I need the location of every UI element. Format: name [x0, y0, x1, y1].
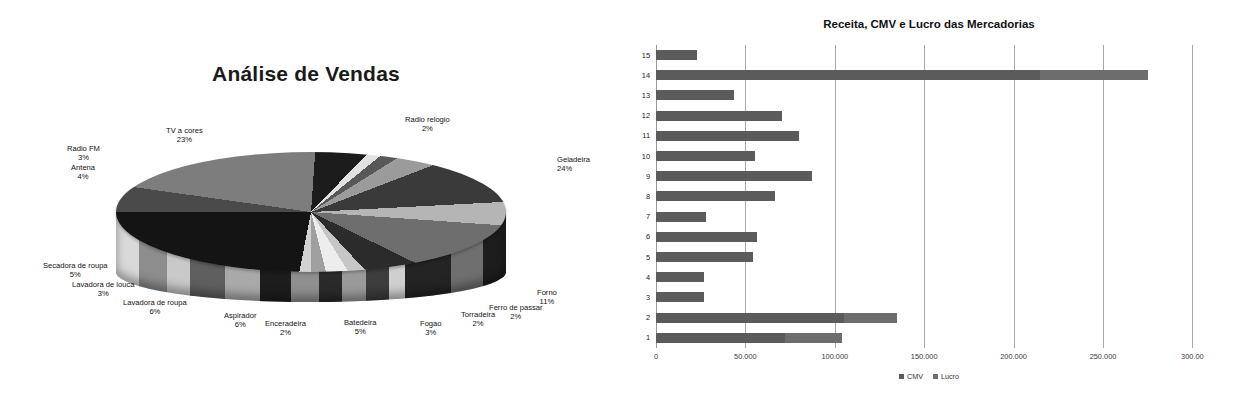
y-tick-label: 1 [626, 333, 650, 342]
bar-segment-lucro[interactable] [844, 313, 898, 323]
pie-label-fogao: Fogao 3% [420, 319, 442, 338]
pie-label-lavadora-de-louca: Lavadora de louca 3% [72, 280, 135, 299]
bar[interactable] [656, 272, 704, 282]
pie-label-enceradeira: Enceradeira 2% [265, 319, 306, 338]
x-tick-label: 250.000 [1090, 352, 1117, 361]
pie-label-tv-a-cores: TV a cores 23% [166, 126, 203, 145]
bar-segment-cmv[interactable] [656, 252, 753, 262]
bar-rows: 151413121110987654321 [626, 45, 1232, 348]
bar-segment-cmv[interactable] [656, 232, 757, 242]
bar-row: 11 [626, 126, 1232, 146]
bar-segment-cmv[interactable] [656, 212, 706, 222]
bar-chart-panel: Receita, CMV e Lucro das Mercadorias 151… [612, 0, 1246, 399]
y-tick-label: 7 [626, 212, 650, 221]
bar-row: 14 [626, 65, 1232, 85]
bar-chart-title: Receita, CMV e Lucro das Mercadorias [612, 18, 1246, 30]
bar[interactable] [656, 151, 755, 161]
bar[interactable] [656, 90, 734, 100]
bar-row: 7 [626, 207, 1232, 227]
x-tick-label: 100.000 [821, 352, 848, 361]
pie-label-lavadora-de-roupa: Lavadora de roupa 6% [123, 298, 187, 317]
bar-row: 3 [626, 287, 1232, 307]
y-tick-label: 14 [626, 71, 650, 80]
y-tick-label: 12 [626, 111, 650, 120]
bar-row: 8 [626, 186, 1232, 206]
bar-chart-plot-area: 151413121110987654321 [626, 45, 1232, 348]
legend-swatch [933, 374, 938, 379]
bar-row: 9 [626, 166, 1232, 186]
pie-label-antena: Antena 4% [71, 163, 95, 182]
legend-item[interactable]: CMV [899, 372, 923, 381]
y-tick-label: 10 [626, 152, 650, 161]
bar-row: 10 [626, 146, 1232, 166]
pie-label-aspirador: Aspirador 6% [224, 311, 257, 330]
y-tick-label: 11 [626, 131, 650, 140]
legend-item[interactable]: Lucro [933, 372, 959, 381]
pie-label-forno: Forno 11% [537, 288, 557, 307]
pie-label-radio-fm: Radio FM 3% [67, 144, 100, 163]
bar-segment-cmv[interactable] [656, 151, 755, 161]
bar[interactable] [656, 171, 812, 181]
bar-row: 4 [626, 267, 1232, 287]
bar-segment-cmv[interactable] [656, 90, 734, 100]
bar[interactable] [656, 313, 897, 323]
y-tick-label: 15 [626, 51, 650, 60]
bar-row: 13 [626, 85, 1232, 105]
y-tick-label: 13 [626, 91, 650, 100]
legend-label: CMV [907, 372, 923, 381]
bar-segment-lucro[interactable] [785, 333, 842, 343]
bar[interactable] [656, 50, 697, 60]
pie-chart-title: Análise de Vendas [0, 62, 612, 86]
x-tick-label: 50.000 [734, 352, 757, 361]
bar-segment-lucro[interactable] [1040, 70, 1147, 80]
y-tick-label: 8 [626, 192, 650, 201]
bar-chart-legend: CMVLucro [612, 372, 1246, 381]
x-tick-label: 300.00 [1181, 352, 1204, 361]
bar[interactable] [656, 232, 757, 242]
pie-chart-panel: Análise de Vendas TV a cores 23% Radio r… [0, 0, 612, 399]
bar-segment-cmv[interactable] [656, 131, 799, 141]
pie-label-radio-relogio: Radio relogio 2% [405, 115, 450, 134]
legend-swatch [899, 374, 904, 379]
x-tick-label: 200.000 [1000, 352, 1027, 361]
bar[interactable] [656, 333, 842, 343]
x-axis-tick-labels: 050.000100.000150.000200.000250.000300.0… [626, 352, 1232, 366]
bar-row: 1 [626, 328, 1232, 348]
bar-segment-cmv[interactable] [656, 272, 704, 282]
screenshot-root: Análise de Vendas TV a cores 23% Radio r… [0, 0, 1246, 399]
pie-label-secadora-de-roupa: Secadora de roupa 5% [43, 261, 108, 280]
bar-segment-cmv[interactable] [656, 171, 812, 181]
bar[interactable] [656, 191, 775, 201]
bar[interactable] [656, 111, 782, 121]
y-tick-label: 6 [626, 232, 650, 241]
pie-label-geladeira: Geladeira 24% [557, 155, 590, 174]
y-tick-label: 9 [626, 172, 650, 181]
bar-segment-cmv[interactable] [656, 191, 775, 201]
bar[interactable] [656, 131, 799, 141]
y-tick-label: 5 [626, 253, 650, 262]
bar-segment-cmv[interactable] [656, 313, 844, 323]
bar-row: 12 [626, 106, 1232, 126]
bar-row: 6 [626, 227, 1232, 247]
bar-segment-cmv[interactable] [656, 292, 704, 302]
bar[interactable] [656, 292, 704, 302]
bar-row: 5 [626, 247, 1232, 267]
x-tick-label: 0 [654, 352, 658, 361]
bar[interactable] [656, 212, 706, 222]
bar-row: 2 [626, 308, 1232, 328]
y-tick-label: 4 [626, 273, 650, 282]
bar[interactable] [656, 70, 1148, 80]
bar-segment-cmv[interactable] [656, 111, 782, 121]
bar-segment-cmv[interactable] [656, 333, 785, 343]
legend-label: Lucro [941, 372, 959, 381]
y-tick-label: 3 [626, 293, 650, 302]
bar-row: 15 [626, 45, 1232, 65]
pie-label-batedeira: Batedeira 5% [344, 318, 377, 337]
bar[interactable] [656, 252, 753, 262]
pie-3d-top-surface [116, 152, 506, 272]
x-tick-label: 150.000 [911, 352, 938, 361]
bar-segment-cmv[interactable] [656, 70, 1040, 80]
pie-label-ferro-de-passar: Ferro de passar 2% [489, 303, 543, 322]
bar-segment-cmv[interactable] [656, 50, 697, 60]
y-tick-label: 2 [626, 313, 650, 322]
